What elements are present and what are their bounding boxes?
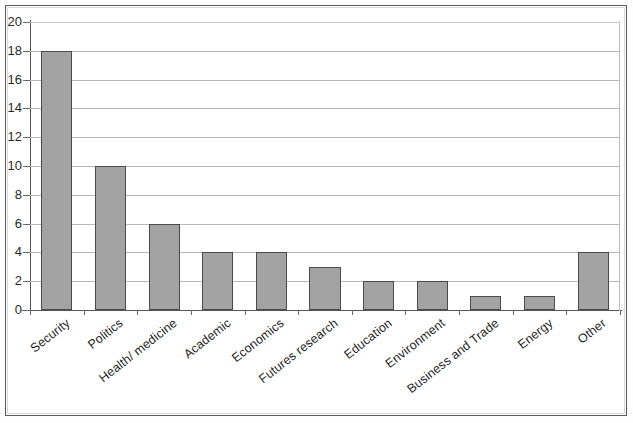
bar: [363, 281, 394, 310]
y-axis-tick: [23, 224, 30, 225]
y-axis-tick: [23, 252, 30, 253]
y-axis-tick: [23, 51, 30, 52]
x-axis-tick: [298, 310, 299, 315]
y-axis-tick: [23, 281, 30, 282]
bar: [470, 296, 501, 310]
x-axis-tick: [566, 310, 567, 315]
bar: [578, 252, 609, 310]
y-axis-tick-label: 12: [0, 130, 22, 143]
bar: [95, 166, 126, 310]
y-axis-tick: [23, 22, 30, 23]
y-axis-tick-label-group: 02468101214161820: [0, 0, 22, 423]
y-axis-tick: [23, 166, 30, 167]
y-axis-tick-label: 6: [0, 217, 22, 230]
gridline: [30, 80, 620, 81]
y-axis-tick-label: 0: [0, 303, 22, 316]
bar: [41, 51, 72, 310]
bar: [256, 252, 287, 310]
y-axis-tick-label: 4: [0, 245, 22, 258]
x-axis-tick: [513, 310, 514, 315]
y-axis-tick-label: 2: [0, 274, 22, 287]
y-axis-tick-label: 8: [0, 188, 22, 201]
y-axis-tick: [23, 310, 30, 311]
bar: [149, 224, 180, 310]
y-axis-tick-label: 10: [0, 159, 22, 172]
plot-area: [30, 22, 620, 310]
bar: [202, 252, 233, 310]
x-axis-tick: [30, 310, 31, 315]
x-axis-tick: [405, 310, 406, 315]
x-axis-tick: [245, 310, 246, 315]
x-axis-tick: [352, 310, 353, 315]
bar: [417, 281, 448, 310]
gridline: [30, 108, 620, 109]
x-axis-tick: [459, 310, 460, 315]
bar: [524, 296, 555, 310]
y-axis-tick: [23, 195, 30, 196]
y-axis-tick-label: 20: [0, 15, 22, 28]
y-axis-tick: [23, 108, 30, 109]
y-axis-tick: [23, 80, 30, 81]
y-axis-tick-label: 14: [0, 101, 22, 114]
x-axis-tick: [191, 310, 192, 315]
gridline: [30, 137, 620, 138]
x-axis-tick: [137, 310, 138, 315]
bar-chart-figure: 02468101214161820 SecurityPoliticsHealth…: [0, 0, 633, 423]
y-axis-tick-label: 16: [0, 73, 22, 86]
y-axis-tick: [23, 137, 30, 138]
gridline: [30, 22, 620, 23]
x-axis-tick: [620, 310, 621, 315]
gridline: [30, 51, 620, 52]
y-axis-tick-label: 18: [0, 44, 22, 57]
bar: [309, 267, 340, 310]
x-axis-tick: [84, 310, 85, 315]
